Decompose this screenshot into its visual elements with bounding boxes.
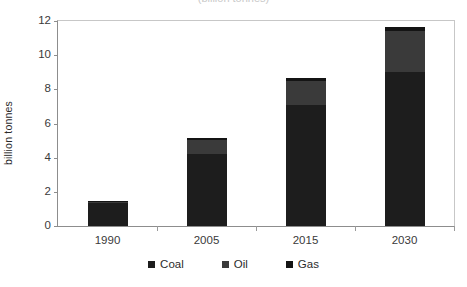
y-axis-title: billion tonnes (2, 78, 14, 188)
x-axis-tick-mark (454, 226, 455, 231)
bar-segment-gas-1990[interactable] (88, 201, 128, 202)
cropped-chart-title-text: (billion tonnes) (198, 0, 270, 4)
y-axis-tick-mark (54, 192, 58, 193)
legend-label: Oil (234, 258, 248, 270)
y-axis-tick-mark (54, 21, 58, 22)
bar-1990[interactable] (88, 201, 128, 226)
legend-swatch-icon (148, 261, 155, 268)
bar-segment-gas-2015[interactable] (286, 78, 326, 81)
legend-label: Coal (160, 258, 184, 270)
y-axis-tick-mark (54, 226, 58, 227)
y-axis-tick-mark (54, 158, 58, 159)
bar-2005[interactable] (187, 138, 227, 226)
bar-segment-gas-2005[interactable] (187, 138, 227, 140)
y-axis-tick-mark (54, 55, 58, 56)
bar-2015[interactable] (286, 78, 326, 226)
y-axis-tick-mark (54, 124, 58, 125)
x-axis-tick-label-2030: 2030 (392, 226, 418, 247)
x-axis-tick-mark (355, 226, 356, 231)
cropped-chart-title: (billion tonnes) (0, 0, 467, 5)
legend-swatch-icon (222, 261, 229, 268)
bar-segment-gas-2030[interactable] (385, 27, 425, 31)
stacked-bar-chart: (billion tonnes) billion tonnes 02468101… (0, 0, 467, 287)
bar-segment-oil-2015[interactable] (286, 81, 326, 105)
bar-segment-oil-2005[interactable] (187, 140, 227, 155)
x-axis-tick-mark (157, 226, 158, 231)
legend-item-gas[interactable]: Gas (286, 258, 319, 270)
bar-segment-oil-2030[interactable] (385, 31, 425, 72)
bar-segment-coal-2030[interactable] (385, 72, 425, 226)
legend-item-coal[interactable]: Coal (148, 258, 184, 270)
y-axis-tick-mark (54, 89, 58, 90)
x-axis-tick-label-2015: 2015 (293, 226, 319, 247)
bar-segment-coal-2005[interactable] (187, 154, 227, 226)
legend-label: Gas (298, 258, 319, 270)
bar-segment-coal-1990[interactable] (88, 203, 128, 226)
x-axis-tick-mark (256, 226, 257, 231)
bar-segment-coal-2015[interactable] (286, 105, 326, 226)
bar-2030[interactable] (385, 27, 425, 226)
bar-segment-oil-1990[interactable] (88, 202, 128, 203)
plot-area: 0246810121990200520152030 (57, 20, 455, 227)
legend-item-oil[interactable]: Oil (222, 258, 248, 270)
x-axis-tick-label-2005: 2005 (194, 226, 220, 247)
x-axis-tick-label-1990: 1990 (95, 226, 121, 247)
legend-swatch-icon (286, 261, 293, 268)
chart-legend: CoalOilGas (0, 258, 467, 270)
